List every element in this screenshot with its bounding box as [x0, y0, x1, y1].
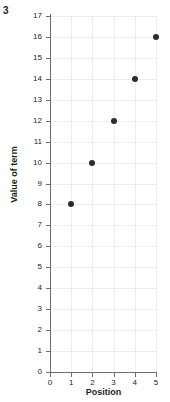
y-tick [46, 267, 50, 268]
gridline-vertical [92, 16, 93, 372]
gridline-horizontal [50, 309, 156, 310]
y-tick-label: 17 [16, 12, 42, 20]
y-tick-label: 15 [16, 54, 42, 62]
y-tick [46, 351, 50, 352]
y-tick [46, 163, 50, 164]
y-tick-label: 4 [16, 284, 42, 292]
y-tick-label: 7 [16, 221, 42, 229]
gridline-horizontal [50, 142, 156, 143]
y-tick [46, 225, 50, 226]
y-axis-line [50, 14, 51, 373]
y-tick-label: 13 [16, 96, 42, 104]
gridline-vertical [114, 16, 115, 372]
gridline-horizontal [50, 267, 156, 268]
gridline-horizontal [50, 184, 156, 185]
x-tick-label: 5 [148, 379, 164, 387]
x-tick [156, 373, 157, 377]
gridline-vertical [135, 16, 136, 372]
y-tick [46, 100, 50, 101]
y-tick [46, 121, 50, 122]
y-tick [46, 58, 50, 59]
y-tick-label: 8 [16, 200, 42, 208]
y-tick-label: 5 [16, 263, 42, 271]
y-tick [46, 330, 50, 331]
y-tick [46, 79, 50, 80]
x-tick [135, 373, 136, 377]
gridline-horizontal [50, 58, 156, 59]
gridline-vertical [71, 16, 72, 372]
y-tick-label: 3 [16, 305, 42, 313]
gridline-horizontal [50, 163, 156, 164]
x-tick-label: 3 [106, 379, 122, 387]
gridline-horizontal [50, 16, 156, 17]
y-tick-label: 9 [16, 180, 42, 188]
y-tick [46, 16, 50, 17]
gridline-horizontal [50, 225, 156, 226]
y-tick-label: 16 [16, 33, 42, 41]
y-tick [46, 204, 50, 205]
y-tick-label: 6 [16, 242, 42, 250]
gridline-horizontal [50, 79, 156, 80]
y-tick [46, 184, 50, 185]
y-tick-label: 11 [16, 138, 42, 146]
x-tick [114, 373, 115, 377]
x-tick [50, 373, 51, 377]
x-tick [92, 373, 93, 377]
y-tick [46, 142, 50, 143]
gridline-horizontal [50, 246, 156, 247]
gridline-horizontal [50, 100, 156, 101]
x-tick-label: 2 [84, 379, 100, 387]
x-axis-line [50, 372, 157, 373]
y-axis-title: Value of term [10, 115, 19, 235]
gridline-horizontal [50, 204, 156, 205]
gridline-horizontal [50, 121, 156, 122]
plot-area [50, 16, 156, 372]
y-tick [46, 37, 50, 38]
question-number: 3 [3, 6, 9, 16]
y-tick-label: 12 [16, 117, 42, 125]
y-tick-label: 14 [16, 75, 42, 83]
data-point [153, 34, 159, 40]
x-tick-label: 0 [42, 379, 58, 387]
x-axis-title: Position [50, 388, 157, 397]
y-tick-label: 0 [16, 368, 42, 376]
y-tick-label: 1 [16, 347, 42, 355]
data-point [132, 76, 138, 82]
x-tick [71, 373, 72, 377]
gridline-horizontal [50, 288, 156, 289]
y-tick-label: 2 [16, 326, 42, 334]
gridline-vertical [156, 16, 157, 372]
data-point [111, 118, 117, 124]
y-tick [46, 246, 50, 247]
data-point [89, 160, 95, 166]
x-tick-label: 4 [127, 379, 143, 387]
y-tick [46, 288, 50, 289]
y-tick [46, 309, 50, 310]
gridline-horizontal [50, 37, 156, 38]
gridline-horizontal [50, 351, 156, 352]
y-tick-label: 10 [16, 159, 42, 167]
x-tick-label: 1 [63, 379, 79, 387]
gridline-horizontal [50, 330, 156, 331]
